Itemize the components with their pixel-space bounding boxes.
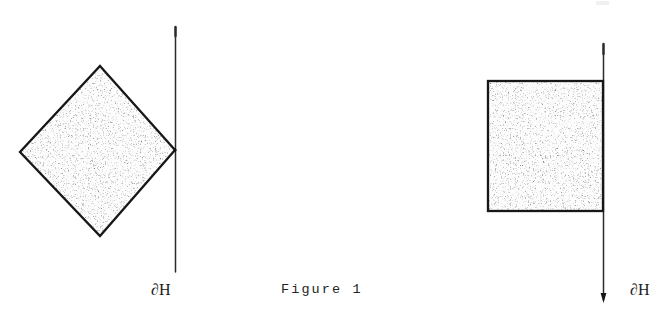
boundary-label-left: ∂H	[151, 281, 170, 299]
figure-caption: Figure 1	[281, 282, 363, 297]
boundary-label-right: ∂H	[630, 281, 649, 299]
